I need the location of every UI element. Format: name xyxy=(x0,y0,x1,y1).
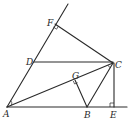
angle-arc-C xyxy=(108,65,110,67)
segment-FC xyxy=(55,24,113,63)
label-C: C xyxy=(115,60,122,70)
label-G: G xyxy=(72,71,79,81)
label-D: D xyxy=(25,57,33,67)
segment-AC xyxy=(7,63,113,107)
angle-arc-A xyxy=(11,101,12,106)
right-angle-mark-E xyxy=(110,103,114,107)
ray-AF xyxy=(7,4,68,107)
label-F: F xyxy=(46,18,54,28)
label-B: B xyxy=(83,110,91,120)
label-E: E xyxy=(109,110,117,120)
segment-BC xyxy=(87,63,113,107)
segment-GB xyxy=(75,80,87,107)
label-A: A xyxy=(2,109,10,119)
geometry-diagram: F D C G A B E xyxy=(0,0,129,128)
